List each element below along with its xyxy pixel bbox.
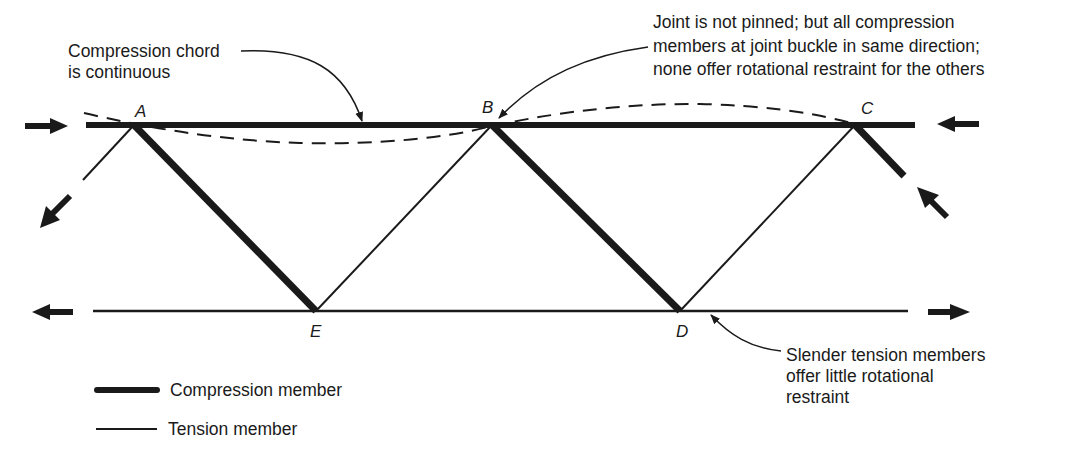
arrow-up-left-icon	[917, 187, 947, 217]
arrow-left-icon	[937, 116, 979, 132]
annotation-text: Slender tension members	[786, 345, 986, 365]
arrow-right-icon	[25, 118, 68, 134]
leader-arrow	[711, 315, 781, 351]
annotation-text: restraint	[786, 387, 849, 407]
compression-diagonals	[134, 125, 904, 311]
arrow-right-icon	[928, 304, 970, 320]
annotation-text: none offer rotational restraint for the …	[653, 59, 985, 79]
arrow-left-icon	[32, 304, 73, 320]
truss-buckling-diagram: A B C E D Compression chord is continuou…	[0, 0, 1069, 455]
joint-label-c: C	[861, 99, 874, 118]
annotation-slender-tension: Slender tension members offer little rot…	[711, 315, 986, 407]
leader-arrow	[499, 47, 648, 118]
tension-diagonals	[83, 125, 855, 311]
joint-label-e: E	[310, 322, 322, 341]
arrow-down-left-icon	[40, 196, 70, 228]
joint-label-b: B	[482, 98, 493, 117]
legend-item-tension: Tension member	[96, 419, 298, 439]
annotation-compression-chord: Compression chord is continuous	[68, 41, 362, 121]
annotation-text: is continuous	[68, 62, 170, 82]
leader-arrow	[241, 51, 362, 121]
joint-label-a: A	[134, 102, 146, 121]
annotation-text: Compression chord	[68, 41, 220, 61]
annotation-text: members at joint buckle in same directio…	[653, 36, 980, 56]
annotation-joint-not-pinned: Joint is not pinned; but all compression…	[499, 12, 985, 118]
joint-label-d: D	[676, 322, 688, 341]
legend-item-compression: Compression member	[97, 380, 342, 400]
legend: Compression member Tension member	[96, 380, 342, 439]
legend-label: Compression member	[170, 380, 342, 400]
annotation-text: offer little rotational	[786, 366, 934, 386]
legend-label: Tension member	[168, 419, 298, 439]
annotation-text: Joint is not pinned; but all compression	[653, 12, 955, 32]
